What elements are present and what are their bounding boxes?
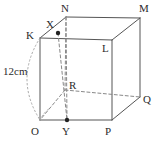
vertex-label-N: N xyxy=(61,3,69,14)
vertex-label-O: O xyxy=(31,126,39,137)
edge-R-Q xyxy=(65,90,140,97)
vertex-label-L: L xyxy=(102,43,109,54)
point-label-X: X xyxy=(46,19,54,30)
edge-P-Q xyxy=(112,97,140,120)
arc-O-X xyxy=(40,108,50,120)
cube-hidden-edges xyxy=(40,17,140,120)
vertex-label-M: M xyxy=(139,3,149,14)
edge-R-O xyxy=(40,90,65,120)
vertex-label-P: P xyxy=(105,126,111,137)
dotted-arcs xyxy=(27,38,50,120)
measurement-label-edge-length: 12cm xyxy=(3,66,27,77)
edge-L-M xyxy=(112,18,140,40)
vertex-label-K: K xyxy=(26,30,34,41)
point-Y-dot xyxy=(65,118,69,122)
edge-N-M xyxy=(66,17,140,18)
cube-solid-edges xyxy=(40,17,140,120)
vertex-label-Q: Q xyxy=(143,94,151,105)
vertex-label-R: R xyxy=(69,80,76,91)
edge-K-L xyxy=(40,38,112,40)
line-N-Y xyxy=(66,17,67,120)
geometry-figure: K L O P N M Q R X Y 12cm xyxy=(0,0,159,141)
point-X-dot xyxy=(56,31,60,35)
arc-K-O xyxy=(27,38,40,120)
point-label-Y: Y xyxy=(62,126,70,137)
